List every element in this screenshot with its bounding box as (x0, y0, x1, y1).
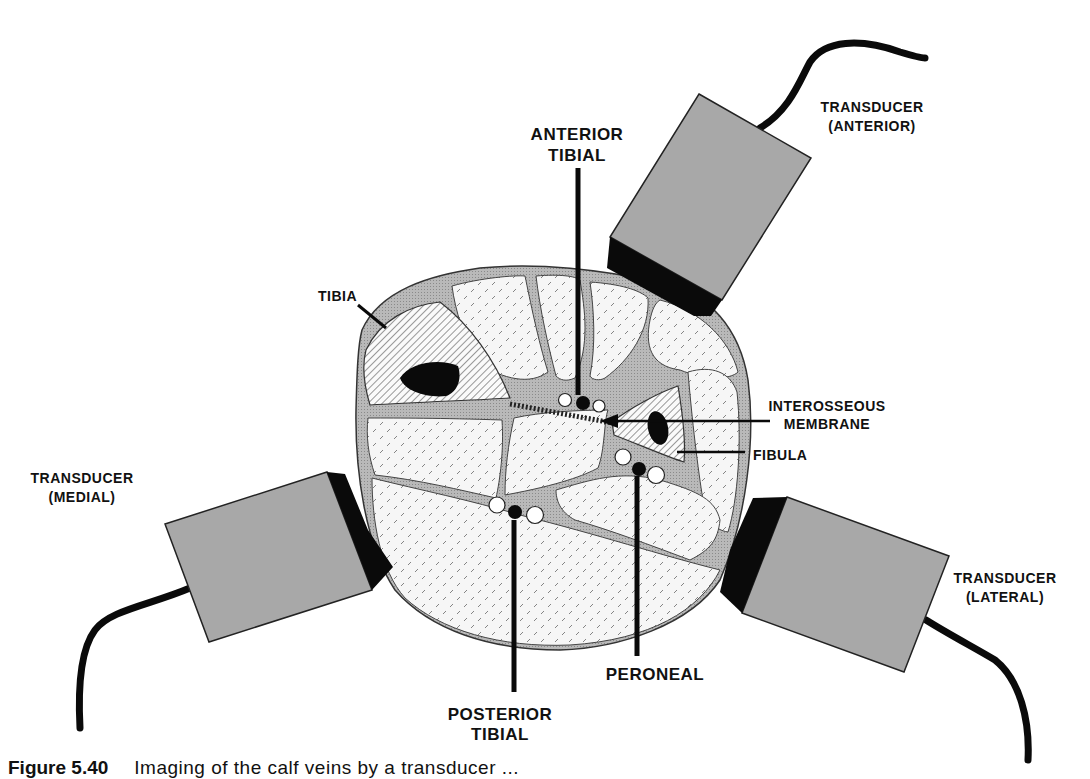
figure-caption: Figure 5.40Imaging of the calf veins by … (8, 757, 519, 779)
transducer-lateral-cable (926, 620, 1028, 760)
transducer-medial (79, 472, 393, 728)
label-transducer-lateral-line1: TRANSDUCER (954, 570, 1057, 586)
label-tibia: TIBIA (318, 288, 357, 304)
calf-section (356, 266, 751, 650)
label-anterior-tibial-line1: ANTERIOR (531, 125, 624, 144)
label-posterior-tibial-line2: TIBIAL (471, 725, 529, 744)
figure-number: Figure 5.40 (8, 757, 108, 778)
label-interosseous-line2: MEMBRANE (784, 416, 870, 432)
transducer-anterior-cable (760, 43, 925, 128)
label-transducer-medial-line1: TRANSDUCER (31, 470, 134, 486)
transducer-anterior (607, 43, 925, 316)
transducer-lateral (720, 497, 1028, 760)
transducer-medial-cable (79, 588, 190, 728)
label-transducer-anterior-line1: TRANSDUCER (821, 99, 924, 115)
label-posterior-tibial-line1: POSTERIOR (448, 705, 553, 724)
label-transducer-medial-line2: (MEDIAL) (49, 489, 116, 505)
label-peroneal: PERONEAL (606, 665, 704, 684)
label-transducer-anterior-line2: (ANTERIOR) (828, 118, 915, 134)
label-anterior-tibial-line2: TIBIAL (548, 146, 606, 165)
label-fibula: FIBULA (753, 447, 807, 463)
label-interosseous-line1: INTEROSSEOUS (768, 398, 885, 414)
figure-caption-text: Imaging of the calf veins by a transduce… (134, 757, 519, 778)
label-transducer-lateral-line2: (LATERAL) (966, 589, 1044, 605)
